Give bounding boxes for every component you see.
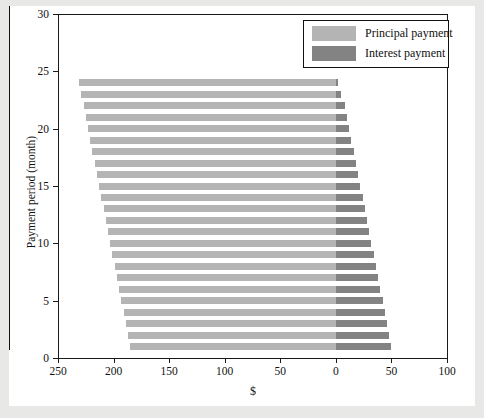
y-tick bbox=[53, 301, 58, 302]
bar-principal bbox=[88, 125, 336, 132]
bar-principal bbox=[90, 137, 336, 144]
x-tick-label: 0 bbox=[333, 365, 339, 377]
bar-principal bbox=[108, 228, 336, 235]
y-tick-label: 20 bbox=[38, 123, 50, 135]
bar-principal bbox=[99, 183, 336, 190]
legend-label-principal: Principal payment bbox=[365, 26, 453, 41]
bar-principal bbox=[81, 91, 336, 98]
y-tick-label: 25 bbox=[38, 65, 50, 77]
bar-interest bbox=[336, 343, 392, 350]
y-tick-label: 0 bbox=[43, 352, 49, 364]
y-tick bbox=[53, 129, 58, 130]
bar-principal bbox=[106, 217, 336, 224]
bar-principal bbox=[86, 114, 336, 121]
legend-item-principal: Principal payment bbox=[312, 26, 453, 41]
legend-label-interest: Interest payment bbox=[365, 46, 445, 61]
chart-legend: Principal payment Interest payment bbox=[303, 20, 449, 68]
x-tick bbox=[280, 358, 281, 363]
bar-interest bbox=[336, 309, 385, 316]
bar-principal bbox=[95, 160, 336, 167]
x-tick-label: 100 bbox=[438, 365, 455, 377]
y-tick bbox=[53, 243, 58, 244]
x-axis-label: $ bbox=[250, 384, 256, 399]
bar-interest bbox=[336, 332, 389, 339]
bar-interest bbox=[336, 205, 365, 212]
y-tick-label: 30 bbox=[38, 8, 50, 20]
plot-top-border bbox=[58, 14, 448, 15]
y-axis-label: Payment period (month) bbox=[25, 112, 37, 272]
x-tick bbox=[58, 358, 59, 363]
zero-baseline bbox=[9, 6, 10, 350]
y-axis-line bbox=[58, 14, 59, 358]
x-tick-label: 100 bbox=[216, 365, 233, 377]
bar-interest bbox=[336, 91, 342, 98]
bar-principal bbox=[121, 297, 336, 304]
bar-principal bbox=[117, 274, 336, 281]
bar-interest bbox=[336, 194, 363, 201]
y-tick bbox=[53, 186, 58, 187]
bar-principal bbox=[126, 320, 336, 327]
bar-interest bbox=[336, 263, 376, 270]
bar-interest bbox=[336, 137, 352, 144]
x-tick bbox=[169, 358, 170, 363]
bar-interest bbox=[336, 228, 369, 235]
x-tick-label: 250 bbox=[49, 365, 66, 377]
x-tick bbox=[114, 358, 115, 363]
bar-principal bbox=[115, 263, 336, 270]
y-tick-label: 10 bbox=[38, 237, 50, 249]
bar-principal bbox=[124, 309, 336, 316]
x-tick-label: 50 bbox=[275, 365, 287, 377]
x-tick bbox=[336, 358, 337, 363]
bar-principal bbox=[92, 148, 335, 155]
x-tick bbox=[391, 358, 392, 363]
bar-interest bbox=[336, 102, 345, 109]
bar-interest bbox=[336, 171, 358, 178]
bar-interest bbox=[336, 160, 356, 167]
x-tick bbox=[225, 358, 226, 363]
plot-area: 25020015010050050100 051015202530 $ Paym… bbox=[9, 6, 475, 406]
bar-interest bbox=[336, 217, 367, 224]
bar-principal bbox=[128, 332, 336, 339]
bar-interest bbox=[336, 274, 378, 281]
bar-principal bbox=[130, 343, 336, 350]
bar-principal bbox=[112, 251, 335, 258]
bar-interest bbox=[336, 183, 360, 190]
bar-interest bbox=[336, 240, 372, 247]
bar-interest bbox=[336, 297, 383, 304]
legend-item-interest: Interest payment bbox=[312, 46, 445, 61]
bar-principal bbox=[101, 194, 336, 201]
x-tick-label: 50 bbox=[386, 365, 398, 377]
bar-principal bbox=[84, 102, 336, 109]
x-tick-label: 150 bbox=[161, 365, 178, 377]
x-axis-line bbox=[58, 358, 448, 359]
bar-interest bbox=[336, 125, 349, 132]
bar-principal bbox=[104, 205, 336, 212]
bar-interest bbox=[336, 114, 347, 121]
bar-interest bbox=[336, 148, 354, 155]
bar-principal bbox=[97, 171, 336, 178]
y-tick bbox=[53, 14, 58, 15]
bar-principal bbox=[119, 286, 336, 293]
y-tick-label: 15 bbox=[38, 180, 50, 192]
legend-swatch-principal bbox=[312, 26, 356, 41]
x-tick-label: 200 bbox=[105, 365, 122, 377]
x-tick bbox=[447, 358, 448, 363]
y-tick-label: 5 bbox=[43, 295, 49, 307]
bar-principal bbox=[110, 240, 336, 247]
legend-swatch-interest bbox=[312, 46, 356, 61]
bar-interest bbox=[336, 286, 380, 293]
bar-interest bbox=[336, 320, 387, 327]
y-tick bbox=[53, 71, 58, 72]
bar-principal bbox=[79, 79, 336, 86]
bar-interest bbox=[336, 79, 338, 86]
bar-interest bbox=[336, 251, 374, 258]
y-tick bbox=[53, 358, 58, 359]
chart-figure: 25020015010050050100 051015202530 $ Paym… bbox=[9, 6, 475, 406]
